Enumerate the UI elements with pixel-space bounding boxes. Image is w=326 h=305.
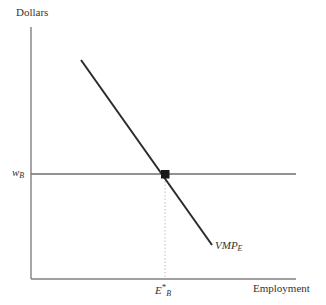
vmp-curve-line [81, 60, 212, 245]
wage-label-subscript: B [19, 171, 24, 180]
y-axis-label: Dollars [16, 7, 48, 18]
vmp-curve-label: VMPE [215, 240, 242, 253]
wage-level-label: wB [12, 167, 24, 180]
vmp-label-base: VMP [215, 239, 238, 251]
equilibrium-label-base: E [155, 284, 162, 296]
vmp-label-subscript: E [238, 244, 243, 253]
equilibrium-point-marker [161, 170, 170, 179]
economics-chart-figure: Dollars Employment wB E*B VMPE [0, 0, 326, 305]
chart-canvas [0, 0, 326, 305]
equilibrium-employment-label: E*B [155, 283, 171, 298]
x-axis-label: Employment [253, 283, 310, 294]
equilibrium-label-subscript: B [166, 289, 171, 298]
